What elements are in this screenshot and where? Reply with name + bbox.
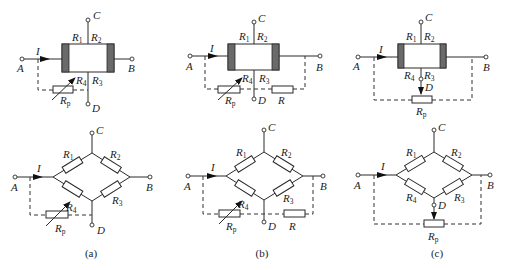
panel-c-bridge-circuit [356,128,492,227]
electrode-left [62,44,69,72]
label-rp: Rp [59,94,71,108]
label-c: C [268,121,276,133]
label-c: C [425,11,433,23]
terminal-b [130,57,134,61]
terminal-c [432,128,436,132]
label-r3: R3 [453,191,465,205]
panel-a-bridge-labels: A I C B D R1 R2 R3 R4 Rp [10,124,153,236]
terminal-a [356,55,360,59]
terminal-c [419,20,423,24]
label-r4: R4 [405,191,417,205]
current-arrow-icon [33,174,43,180]
terminal-b [321,174,325,178]
label-rp: Rp [415,105,427,119]
electrode-right [440,44,446,68]
label-r1: R1 [71,31,83,45]
label-c: C [96,124,104,136]
terminal-d [90,223,94,227]
label-a: A [10,181,18,193]
label-r4: R4 [65,201,77,215]
label-rp: Rp [427,230,439,244]
current-arrow-icon [40,56,50,62]
r4-resistor [235,180,256,197]
label-d: D [257,94,266,106]
label-i: I [35,45,41,57]
label-c: C [438,121,446,133]
label-r: R [277,94,285,106]
label-a: A [353,179,361,191]
label-r2: R2 [256,30,268,44]
label-r4: R4 [241,72,253,86]
label-r1: R1 [405,146,417,160]
electrode-right [107,44,114,72]
terminal-a [356,173,360,177]
label-r2: R2 [280,146,292,160]
label-c: C [93,9,101,21]
label-r3: R3 [423,69,435,83]
r4-resistor [62,181,83,197]
panel-b-bridge-circuit [186,128,325,224]
label-i: I [36,162,42,174]
label-b: B [146,181,153,193]
label-r1: R1 [405,30,417,44]
caption-b: (b) [256,247,269,260]
panel-b-top-circuit [188,20,322,101]
label-rp: Rp [225,220,237,234]
caption-c: (c) [431,247,444,260]
label-rp: Rp [54,222,66,236]
label-b: B [320,180,327,192]
label-r2: R2 [109,148,121,162]
label-a: A [16,62,24,74]
electrode-left [228,44,235,70]
terminal-b [488,173,492,177]
label-r3: R3 [111,194,123,208]
current-arrow-icon [377,172,387,178]
label-r3: R3 [258,72,270,86]
label-r4: R4 [75,74,87,88]
label-r2: R2 [450,146,462,160]
balance-dash-left [38,59,53,90]
label-r2: R2 [90,31,102,45]
terminal-b [484,55,488,59]
caption-a: (a) [85,247,98,260]
r-resistor [272,86,293,93]
label-d: D [437,199,446,211]
terminal-c [252,20,256,24]
label-i: I [378,43,384,55]
panel-a-bridge-circuit [13,131,152,227]
label-b: B [128,62,135,74]
electrode-right [272,44,279,70]
circuit-figure: A I C B D R1 R2 R4 R3 Rp A I C B D [0,0,506,270]
label-rp: Rp [224,94,236,108]
label-d: D [96,224,105,236]
strain-body [62,44,114,72]
terminal-d [252,97,256,101]
terminal-a [188,54,192,58]
r-resistor [284,210,305,217]
label-i: I [210,161,216,173]
circuit-diagram: A I C B D R1 R2 R4 R3 Rp A I C B D [0,0,506,270]
terminal-c [262,128,266,132]
terminal-b [148,175,152,179]
label-a: A [185,60,193,72]
terminal-c [90,131,94,135]
label-i: I [209,42,215,54]
current-arrow-icon [207,173,217,179]
label-r4: R4 [237,198,249,212]
terminal-d [432,203,436,207]
label-c: C [258,12,266,24]
label-d: D [267,220,276,232]
terminal-d [262,220,266,224]
label-r4: R4 [403,69,415,83]
label-r1: R1 [235,146,247,160]
terminal-b [318,54,322,58]
rp-potentiometer [424,220,444,227]
strain-body [398,44,446,68]
terminal-a [13,175,17,179]
label-a: A [352,60,360,72]
strain-body [228,44,279,70]
label-i: I [380,160,386,172]
terminal-a [20,57,24,61]
electrode-left [398,44,404,68]
panel-c-top-circuit [356,20,488,103]
